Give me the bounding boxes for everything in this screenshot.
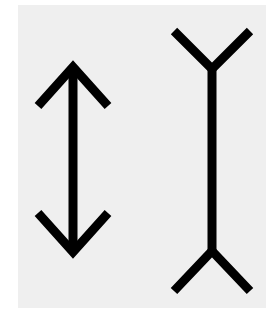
left-arrow-icon (38, 67, 108, 252)
muller-lyer-figure (0, 0, 280, 314)
right-fork-line-icon (174, 31, 250, 291)
